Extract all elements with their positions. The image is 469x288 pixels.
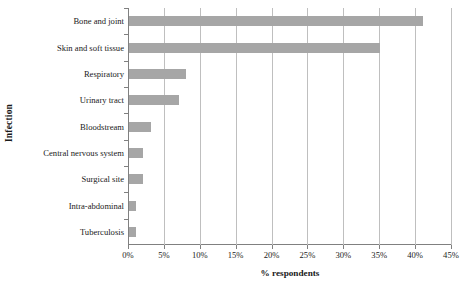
gridline [415,8,416,245]
gridline [451,8,452,245]
y-axis-tick [124,61,128,62]
x-axis-tick-label: 25% [300,250,316,260]
x-axis-tick [236,245,237,249]
chart-figure: Infection Bone and jointSkin and soft ti… [0,0,469,288]
x-axis-tick-label: 35% [371,250,387,260]
x-axis-tick-label: 40% [407,250,423,260]
y-axis-tick [124,113,128,114]
category-label: Skin and soft tissue [16,43,124,53]
y-axis-tick [124,192,128,193]
category-axis-labels: Bone and jointSkin and soft tissueRespir… [16,8,124,245]
y-axis-tick [124,34,128,35]
bar [129,227,136,237]
category-label: Bloodstream [16,122,124,132]
x-axis-tick [272,245,273,249]
bar [129,201,136,211]
x-axis-tick-label: 30% [335,250,351,260]
x-axis-tick [343,245,344,249]
x-axis-tick-labels: 0%5%10%15%20%25%30%35%40%45% [128,250,452,264]
y-axis-tick [124,8,128,9]
x-axis-tick [451,245,452,249]
bar [129,95,179,105]
x-axis-tick [307,245,308,249]
category-label: Tuberculosis [16,227,124,237]
x-axis-tick [415,245,416,249]
x-axis-tick-label: 20% [264,250,280,260]
y-axis-title-text: Infection [4,103,14,141]
category-label: Respiratory [16,69,124,79]
bar [129,174,143,184]
x-axis-tick-label: 5% [158,250,169,260]
bar [129,43,380,53]
category-label: Intra-abdominal [16,201,124,211]
bar [129,122,151,132]
x-axis-tick [200,245,201,249]
y-axis-tick [124,166,128,167]
x-axis-tick [379,245,380,249]
x-axis-tick [164,245,165,249]
y-axis-tick [124,219,128,220]
x-axis-title: % respondents [128,268,452,278]
category-label: Bone and joint [16,16,124,26]
y-axis-tick [124,140,128,141]
bar [129,148,143,158]
y-axis-tick [124,87,128,88]
bar [129,16,423,26]
category-label: Central nervous system [16,148,124,158]
plot-area [128,8,452,245]
x-axis-tick-label: 10% [192,250,208,260]
category-label: Surgical site [16,174,124,184]
x-axis-tick-label: 45% [443,250,459,260]
x-axis-tick [128,245,129,249]
bar [129,69,186,79]
x-axis-tick-label: 0% [122,250,133,260]
x-axis-tick-label: 15% [228,250,244,260]
category-label: Urinary tract [16,95,124,105]
